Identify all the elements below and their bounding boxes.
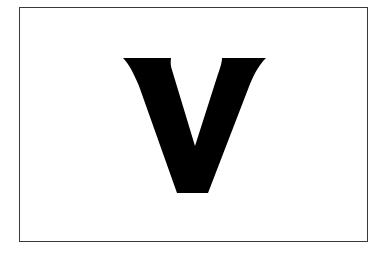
letter-v-glyph bbox=[0, 0, 386, 253]
letter-v-shape bbox=[123, 58, 266, 193]
